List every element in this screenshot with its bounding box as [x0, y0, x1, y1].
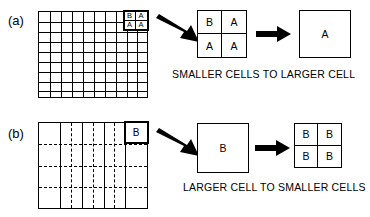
figure-canvas: (a) B A A A B A A A [0, 0, 370, 217]
highlighted-cell-block-b[interactable]: B [124, 121, 149, 144]
intermediate-box-b: B [197, 123, 249, 173]
caption-a: SMALLER CELLS TO LARGER CELL [172, 68, 355, 80]
row-label-a: (a) [8, 13, 24, 28]
box-cell: B [318, 124, 341, 146]
box-cell: A [198, 34, 222, 57]
grid-line-vertical [83, 12, 84, 97]
box-cell: B [198, 11, 222, 34]
box-cell: B [295, 124, 318, 146]
highlight-cell: A [125, 21, 136, 30]
grid-line-horizontal [39, 62, 147, 63]
grid-line-horizontal [39, 72, 147, 73]
grid-line-vertical [50, 12, 51, 97]
grid-line-vertical [72, 12, 73, 97]
final-box-b: B B B B [294, 123, 342, 168]
caption-b: LARGER CELL TO SMALLER CELLS [183, 181, 366, 193]
grid-line-vertical-dashed [71, 123, 72, 208]
box-cell: B [295, 146, 318, 168]
grid-line-horizontal [39, 91, 147, 92]
arrow-angled-b [155, 126, 201, 160]
grid-line-vertical [94, 12, 95, 97]
grid-line-horizontal [39, 52, 147, 53]
source-grid-coarse: B [38, 122, 148, 209]
grid-line-horizontal [39, 32, 147, 33]
grid-line-vertical [105, 12, 106, 97]
final-box-a: A [299, 10, 351, 58]
highlighted-cell-block-a[interactable]: B A A A [123, 10, 149, 31]
arrow-horizontal-b [255, 140, 291, 156]
box-cell: B [318, 146, 341, 168]
arrow-horizontal-a [256, 26, 292, 42]
arrow-angled-a [155, 12, 201, 46]
grid-line-vertical-dashed [93, 123, 94, 208]
source-grid-fine: B A A A [38, 11, 148, 98]
highlight-cell: B [133, 127, 140, 138]
row-label-b: (b) [8, 126, 24, 141]
highlight-cell: A [136, 21, 147, 30]
grid-line-vertical-dashed [114, 123, 115, 208]
grid-line-horizontal [39, 42, 147, 43]
intermediate-box-a: B A A A [197, 10, 247, 58]
box-cell: A [222, 11, 246, 34]
grid-line-vertical [61, 12, 62, 97]
grid-line-vertical [116, 12, 117, 97]
box-cell: A [222, 34, 246, 57]
grid-line-horizontal [39, 82, 147, 83]
